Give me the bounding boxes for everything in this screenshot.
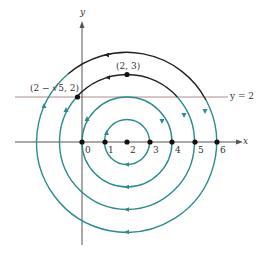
orbit-r3-black-arc xyxy=(77,75,178,97)
point-intersection-label: (2 − √5, 2) xyxy=(30,84,79,93)
y-axis-arrow-icon xyxy=(80,21,85,28)
tick-label-4: 4 xyxy=(175,146,181,155)
tick-label-6: 6 xyxy=(220,146,226,155)
x-axis-arrow-icon xyxy=(236,140,243,145)
point-2-3-label: (2, 3) xyxy=(116,62,140,71)
point-2-minus-sqrt5-2 xyxy=(75,94,80,99)
orbit-r4-black-arc xyxy=(68,52,206,100)
tick-label-0: 0 xyxy=(85,146,91,155)
tick-label-1: 1 xyxy=(108,146,114,155)
tick-label-5: 5 xyxy=(198,146,204,155)
tick-label-2: 2 xyxy=(130,146,136,155)
phase-portrait-diagram xyxy=(0,0,270,258)
flow-arrows xyxy=(42,53,208,234)
y-axis-label: y xyxy=(80,8,85,17)
line-y-equals-2-label: y = 2 xyxy=(230,92,254,101)
tick-label-3: 3 xyxy=(153,146,159,155)
point-2-3 xyxy=(124,72,129,77)
x-axis-label: x xyxy=(243,137,248,146)
